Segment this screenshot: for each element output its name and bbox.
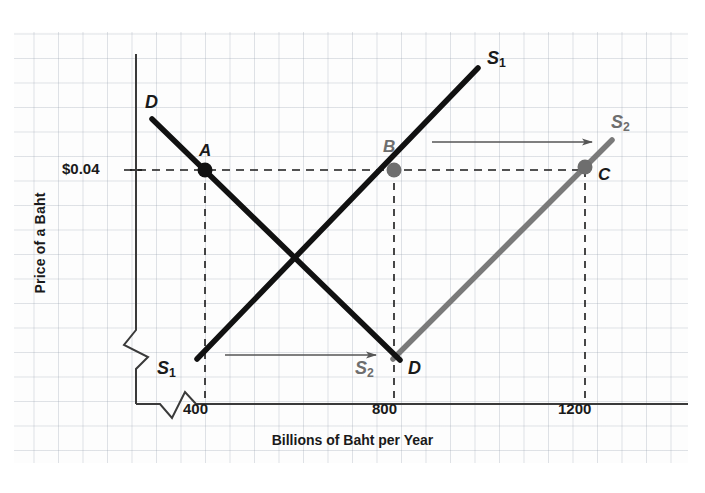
point-marker-b: [387, 163, 402, 178]
x-axis-label: Billions of Baht per Year: [0, 432, 705, 448]
point-label-a: A: [199, 141, 211, 161]
point-label-b: B: [383, 137, 395, 157]
plot-area: [0, 0, 705, 493]
curve-label-d-bottom: D: [408, 358, 421, 379]
y-axis-tick-label: $0.04: [62, 160, 100, 177]
x-axis-tick-label-1200: 1200: [558, 400, 591, 417]
supply-curve-s2: [393, 140, 612, 359]
chart-figure: Price of a Baht $0.04 400 800 1200 Billi…: [0, 0, 705, 493]
x-axis: [136, 392, 688, 418]
curve-label-d-top: D: [145, 92, 158, 113]
point-label-c: C: [598, 165, 610, 185]
curve-label-s1-top: S1: [487, 48, 506, 70]
point-marker-a: [198, 163, 213, 178]
demand-curve-d: [152, 119, 400, 360]
x-axis-tick-label-400: 400: [183, 400, 208, 417]
curve-label-s2-top: S2: [611, 112, 630, 134]
x-axis-tick-label-800: 800: [372, 400, 397, 417]
curve-label-s2-bottom: S2: [355, 358, 374, 380]
point-marker-c: [578, 160, 593, 175]
y-axis-label: Price of a Baht: [32, 168, 48, 318]
curve-label-s1-bottom: S1: [157, 358, 176, 380]
